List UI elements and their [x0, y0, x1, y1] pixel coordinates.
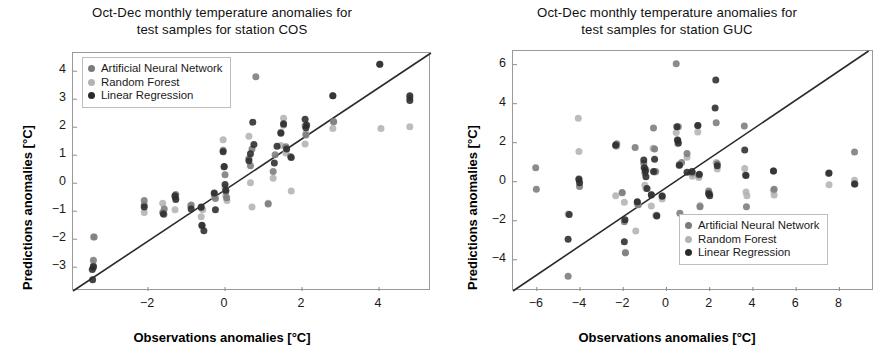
y-tick-label: −1 [38, 202, 66, 216]
data-point [277, 130, 284, 137]
data-point [198, 204, 205, 211]
x-tick-label: −4 [559, 296, 599, 310]
panel-title-guc: Oct-Dec monthly temperature anomalies fo… [445, 4, 889, 38]
data-point [650, 168, 657, 175]
panel-title-guc-line2: test samples for station GUC [445, 21, 889, 38]
data-point [270, 175, 277, 182]
data-point [642, 173, 649, 180]
data-point [826, 169, 833, 176]
panel-title-cos-line2: test samples for station COS [0, 21, 444, 38]
data-point [302, 141, 309, 148]
data-point [90, 263, 97, 270]
data-point [565, 236, 572, 243]
data-point [696, 171, 703, 178]
data-point [648, 203, 655, 210]
data-point [650, 125, 657, 132]
data-point [89, 276, 96, 283]
data-point [648, 192, 655, 199]
panel-title-cos: Oct-Dec monthly temperature anomalies fo… [0, 4, 444, 38]
data-point [575, 148, 582, 155]
data-point [406, 123, 413, 130]
data-point [406, 97, 413, 104]
y-tick-label: −4 [478, 251, 506, 265]
legend-label-ann: Artificial Neural Network [101, 62, 223, 76]
data-point [249, 204, 256, 211]
data-point [675, 140, 682, 147]
data-point [288, 188, 295, 195]
data-point [222, 171, 229, 178]
data-point [274, 143, 281, 150]
data-point [330, 118, 337, 125]
data-point [743, 192, 750, 199]
data-point [533, 186, 540, 193]
data-point [621, 216, 628, 223]
x-tick-label: 6 [775, 296, 815, 310]
data-point [694, 122, 701, 129]
x-tick-label: 8 [818, 296, 858, 310]
y-axis-label-guc: Predictions anomalies [°C] [465, 125, 480, 290]
data-point [612, 142, 619, 149]
data-point [684, 150, 691, 157]
data-point [851, 181, 858, 188]
data-point [160, 211, 167, 218]
legend-marker-lr [685, 249, 692, 256]
data-point [247, 150, 254, 157]
panel-station-cos: Oct-Dec monthly temperature anomalies fo… [0, 0, 444, 360]
data-point [302, 132, 309, 139]
data-point [676, 162, 683, 169]
data-point [619, 189, 626, 196]
x-tick-label: 4 [732, 296, 772, 310]
data-point [222, 187, 229, 194]
legend-label-lr: Linear Regression [101, 89, 193, 103]
data-point [694, 128, 701, 135]
panel-title-guc-line1: Oct-Dec monthly temperature anomalies fo… [445, 4, 889, 21]
data-point [90, 257, 97, 264]
data-point [632, 144, 639, 151]
legend-label-rf: Random Forest [101, 76, 180, 90]
y-tick-label: 6 [478, 56, 506, 70]
legend-marker-rf [685, 236, 692, 243]
data-point [198, 213, 205, 220]
y-tick-label: −2 [38, 230, 66, 244]
x-tick-label: 0 [645, 296, 685, 310]
data-point [673, 123, 680, 130]
data-point [651, 156, 658, 163]
legend-item-ann: Artificial Neural Network [88, 62, 223, 76]
x-axis-label-guc: Observations anomalies [°C] [445, 330, 889, 345]
data-point [741, 123, 748, 130]
data-point [245, 133, 252, 140]
data-point [770, 168, 777, 175]
y-axis-label-cos: Predictions anomalies [°C] [20, 125, 35, 290]
legend-marker-ann [88, 65, 95, 72]
data-point [566, 211, 573, 218]
data-point [280, 120, 287, 127]
data-point [612, 192, 619, 199]
data-point [659, 193, 666, 200]
data-point [621, 199, 628, 206]
data-point [245, 157, 252, 164]
data-point [673, 60, 680, 67]
data-point [172, 196, 179, 203]
legend-label-lr: Linear Regression [698, 246, 790, 260]
data-point [249, 119, 256, 126]
y-tick-label: −2 [478, 212, 506, 226]
data-point [200, 227, 207, 234]
panel-title-cos-line1: Oct-Dec monthly temperature anomalies fo… [0, 4, 444, 21]
legend-item-rf: Random Forest [88, 76, 223, 90]
data-point [576, 179, 583, 186]
data-point [265, 200, 272, 207]
legend-item-rf: Random Forest [685, 233, 820, 247]
data-point [247, 179, 254, 186]
data-point [622, 249, 629, 256]
data-point [696, 203, 703, 210]
data-point [741, 147, 748, 154]
data-point [272, 151, 279, 158]
data-point [714, 162, 721, 169]
data-point [250, 141, 257, 148]
data-point [706, 192, 713, 199]
y-tick-label: 3 [38, 90, 66, 104]
legend-label-rf: Random Forest [698, 233, 777, 247]
data-point [688, 168, 695, 175]
x-tick-label: 2 [689, 296, 729, 310]
y-tick-label: 4 [38, 62, 66, 76]
